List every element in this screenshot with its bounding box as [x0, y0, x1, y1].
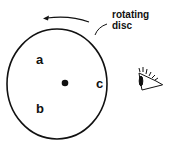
eye-icon — [139, 67, 163, 90]
point-label-b: b — [36, 101, 44, 116]
center-dot — [62, 80, 69, 87]
disc-circle — [7, 29, 107, 139]
title-label-line1: rotating — [112, 9, 149, 20]
leader-line — [95, 24, 107, 35]
point-label-c: c — [96, 76, 103, 91]
title-label-line2: disc — [112, 20, 132, 31]
rotating-disc-diagram: rotating disc a b c — [0, 0, 175, 145]
rotation-arrow-icon — [43, 16, 89, 23]
point-label-a: a — [36, 52, 44, 67]
